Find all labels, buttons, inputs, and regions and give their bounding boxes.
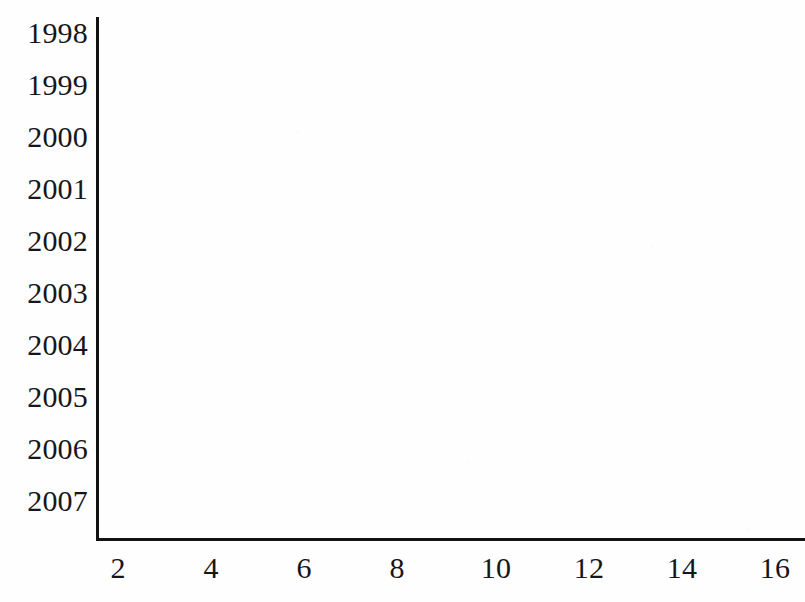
x-axis-tick-label: 14 [667, 552, 697, 584]
x-axis-tick-label: 10 [481, 552, 511, 584]
x-axis-tick-label: 8 [389, 552, 404, 584]
x-axis-tick-label: 6 [296, 552, 311, 584]
chart-figure: 1998199920002001200220032004200520062007… [0, 0, 805, 602]
x-axis-tick-label: 2 [110, 552, 125, 584]
x-axis-tick-label: 16 [760, 552, 790, 584]
x-axis-tick-label: 12 [574, 552, 604, 584]
x-axis-tick-label: 4 [203, 552, 218, 584]
x-axis-tick-label-group: 246810121416 [0, 0, 805, 602]
